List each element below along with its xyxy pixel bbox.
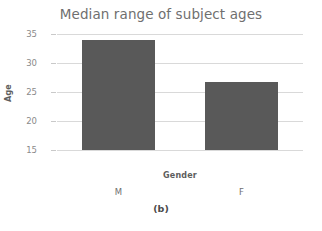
figure-caption: (b) xyxy=(0,203,322,214)
y-axis-tick-mark xyxy=(51,150,56,151)
bar-m xyxy=(82,40,156,150)
gridline xyxy=(57,150,303,151)
y-axis-tick-mark xyxy=(51,92,56,93)
y-axis-tick-label: 20 xyxy=(15,117,37,126)
y-axis-title: Age xyxy=(4,78,13,108)
x-axis-title: Gender xyxy=(57,171,303,180)
chart-title: Median range of subject ages xyxy=(0,6,322,22)
gridline xyxy=(57,34,303,35)
y-axis-tick-label: 35 xyxy=(15,30,37,39)
y-axis-tick-mark xyxy=(51,34,56,35)
y-axis-tick-label: 25 xyxy=(15,88,37,97)
x-axis-tick-label: M xyxy=(99,188,139,197)
y-axis-tick-mark xyxy=(51,63,56,64)
figure-panel: Median range of subject ages Age 3530252… xyxy=(0,0,322,231)
y-axis-tick-label: 15 xyxy=(15,146,37,155)
x-axis-tick-label: F xyxy=(222,188,262,197)
y-axis-tick-mark xyxy=(51,121,56,122)
plot-area: 3530252015MF xyxy=(57,34,303,150)
bar-f xyxy=(205,82,279,150)
y-axis-tick-label: 30 xyxy=(15,59,37,68)
